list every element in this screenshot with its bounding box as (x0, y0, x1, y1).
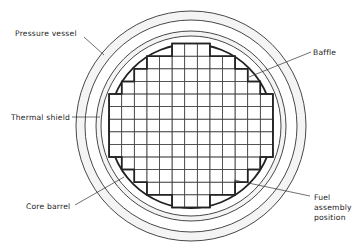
pressure-vessel-leader (84, 37, 104, 55)
pressure-vessel-label: Pressure vessel (15, 29, 77, 38)
reactor-core-diagram: Pressure vessel Baffle Thermal shield Co… (0, 0, 360, 251)
core-barrel-label: Core barrel (26, 202, 70, 211)
fuel-assembly-label-line2: assembly (314, 203, 352, 212)
thermal-shield-label: Thermal shield (10, 113, 70, 122)
fuel-assembly-label-line1: Fuel (314, 193, 330, 202)
baffle-label: Baffle (313, 48, 336, 57)
fuel-assembly-label-line3: position (314, 213, 346, 222)
